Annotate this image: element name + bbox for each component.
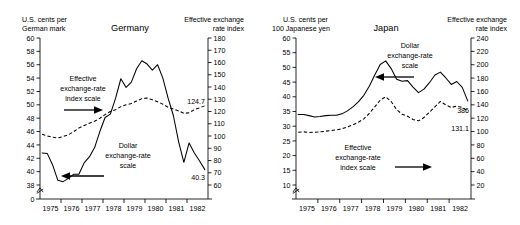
svg-text:150: 150 xyxy=(214,71,226,79)
exchange-rate-figure: U.S. cents per German mark Germany Effec… xyxy=(0,0,520,225)
svg-text:80: 80 xyxy=(477,142,485,150)
germany-dollar-arrow-left-icon xyxy=(61,172,104,180)
germany-right-axis-title-line2: rate index xyxy=(213,25,245,33)
svg-text:30: 30 xyxy=(283,123,291,131)
svg-text:130: 130 xyxy=(214,96,226,104)
svg-text:60: 60 xyxy=(214,182,222,190)
svg-text:160: 160 xyxy=(477,88,489,96)
svg-text:15: 15 xyxy=(283,167,291,175)
japan-index-annotation-line1: Effective xyxy=(344,144,371,152)
svg-text:1982: 1982 xyxy=(452,205,468,213)
svg-text:54: 54 xyxy=(27,75,35,83)
germany-chart-title: Germany xyxy=(111,23,149,33)
svg-text:200: 200 xyxy=(477,61,489,69)
svg-text:1975: 1975 xyxy=(43,205,59,213)
svg-text:1980: 1980 xyxy=(408,205,424,213)
series-index-dashed xyxy=(42,98,205,138)
japan-right-axis-title-line1: Effective exchange xyxy=(447,16,507,24)
germany-right-axis-title-line1: Effective exchange xyxy=(184,16,244,24)
japan-dollar-annotation-line2: exchange-rate xyxy=(387,52,432,60)
svg-text:180: 180 xyxy=(477,75,489,83)
svg-text:42: 42 xyxy=(27,155,35,163)
japan-chart-svg: U.S. cents per 100 Japanese yen Japan Ef… xyxy=(258,0,520,225)
svg-text:170: 170 xyxy=(214,47,226,55)
svg-text:110: 110 xyxy=(214,120,225,128)
svg-text:0: 0 xyxy=(31,196,35,204)
japan-left-axis-title-line2: 100 Japanese yen xyxy=(272,25,330,33)
svg-text:56: 56 xyxy=(27,61,35,69)
svg-text:1977: 1977 xyxy=(343,205,359,213)
svg-text:60: 60 xyxy=(27,35,35,43)
japan-index-annotation: Effective exchange-rate index scale xyxy=(335,144,432,172)
svg-text:40: 40 xyxy=(27,168,35,176)
japan-series xyxy=(298,61,468,133)
svg-text:120: 120 xyxy=(214,108,226,116)
svg-text:25: 25 xyxy=(283,138,291,146)
svg-text:120: 120 xyxy=(477,115,489,123)
svg-text:1981: 1981 xyxy=(430,205,446,213)
svg-text:100: 100 xyxy=(214,133,226,141)
svg-text:35: 35 xyxy=(283,108,291,116)
japan-index-annotation-line2: exchange-rate xyxy=(335,154,380,162)
japan-left-axis-title-line1: U.S. cents per xyxy=(283,16,329,24)
japan-dollar-annotation: Dollar exchange-rate scale xyxy=(375,42,433,81)
germany-index-arrow-right-icon xyxy=(64,106,103,114)
germany-index-annotation-line3: index scale xyxy=(65,95,101,103)
svg-text:1976: 1976 xyxy=(321,205,337,213)
svg-text:40: 40 xyxy=(283,93,291,101)
svg-text:180: 180 xyxy=(214,35,226,43)
germany-index-end-value: 124.7 xyxy=(187,98,205,106)
svg-text:60: 60 xyxy=(283,35,291,43)
svg-text:52: 52 xyxy=(27,88,35,96)
svg-text:1980: 1980 xyxy=(148,205,164,213)
japan-dollar-end-value: 386 xyxy=(457,107,469,115)
japan-dollar-annotation-line1: Dollar xyxy=(401,42,420,50)
svg-text:20: 20 xyxy=(477,182,485,190)
svg-text:1981: 1981 xyxy=(169,205,185,213)
japan-chart-title: Japan xyxy=(373,23,398,33)
svg-text:50: 50 xyxy=(283,64,291,72)
germany-axes: 3840424446485052545658606070809010011012… xyxy=(27,35,226,213)
svg-text:46: 46 xyxy=(27,128,35,136)
svg-text:70: 70 xyxy=(214,169,222,177)
germany-index-annotation-line2: exchange-rate xyxy=(60,85,105,93)
svg-text:58: 58 xyxy=(27,48,35,56)
svg-text:1975: 1975 xyxy=(299,205,315,213)
germany-dollar-annotation-line1: Dollar xyxy=(119,142,138,150)
germany-chart-svg: U.S. cents per German mark Germany Effec… xyxy=(0,0,258,225)
svg-text:1976: 1976 xyxy=(64,205,80,213)
svg-text:1977: 1977 xyxy=(85,205,101,213)
svg-text:10: 10 xyxy=(283,182,291,190)
svg-text:20: 20 xyxy=(283,152,291,160)
svg-text:220: 220 xyxy=(477,48,489,56)
svg-text:60: 60 xyxy=(477,155,485,163)
svg-text:40: 40 xyxy=(477,168,485,176)
japan-right-axis-title-line2: rate index xyxy=(476,25,508,33)
series-index-dashed xyxy=(298,97,468,133)
svg-text:160: 160 xyxy=(214,59,226,67)
svg-text:80: 80 xyxy=(214,157,222,165)
svg-text:90: 90 xyxy=(214,145,222,153)
germany-dollar-end-value: 40.3 xyxy=(191,174,205,182)
svg-text:1982: 1982 xyxy=(190,205,206,213)
svg-text:55: 55 xyxy=(283,49,291,57)
japan-index-end-value: 131.1 xyxy=(451,125,469,133)
svg-text:240: 240 xyxy=(477,35,489,43)
series-dollar-solid xyxy=(298,61,468,117)
svg-text:140: 140 xyxy=(214,84,226,92)
svg-text:1979: 1979 xyxy=(387,205,403,213)
svg-text:48: 48 xyxy=(27,115,35,123)
svg-text:100: 100 xyxy=(477,128,489,136)
svg-text:1978: 1978 xyxy=(106,205,122,213)
svg-text:140: 140 xyxy=(477,101,489,109)
svg-text:38: 38 xyxy=(27,182,35,190)
japan-index-annotation-line3: index scale xyxy=(340,164,376,172)
japan-dollar-annotation-line3: scale xyxy=(402,62,419,70)
svg-text:45: 45 xyxy=(283,79,291,87)
germany-dollar-annotation-line2: exchange-rate xyxy=(105,152,150,160)
germany-left-axis-title-line2: German mark xyxy=(22,25,66,33)
germany-left-axis-title-line1: U.S. cents per xyxy=(22,16,68,24)
germany-dollar-annotation-line3: scale xyxy=(120,162,137,170)
chart-panel-germany: U.S. cents per German mark Germany Effec… xyxy=(0,0,258,225)
japan-index-arrow-right-icon xyxy=(395,163,432,171)
